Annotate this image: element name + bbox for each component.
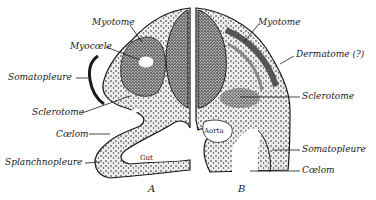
label-myocoele: Myocœle <box>70 42 112 51</box>
section-b-sclerotome <box>220 88 260 108</box>
panel-label-b: B <box>238 184 245 194</box>
section-a-somatopleure <box>89 56 104 104</box>
label-somatopleure-b: Somatopleure <box>302 145 366 154</box>
label-aorta: Aorta <box>204 128 224 135</box>
section-a <box>89 8 190 178</box>
label-gut: Gut <box>140 155 153 162</box>
label-somatopleure-a: Somatopleure <box>8 73 72 82</box>
label-dermatome: Dermatome (?) <box>296 50 364 59</box>
label-sclerotome-b: Sclerotome <box>302 92 354 101</box>
section-a-gut-cavity <box>126 150 186 162</box>
label-coelom-b: Cœlom <box>302 166 335 175</box>
label-coelom-a: Cœlom <box>56 130 89 139</box>
label-sclerotome-a: Sclerotome <box>32 108 84 117</box>
panel-label-a: A <box>148 184 155 194</box>
label-splanchnopleure: Splanchnopleure <box>5 158 82 167</box>
section-b <box>196 8 290 172</box>
label-myotome-a: Myotome <box>92 18 135 27</box>
label-myotome-b: Myotome <box>258 18 301 27</box>
section-a-myocoele <box>138 56 154 68</box>
